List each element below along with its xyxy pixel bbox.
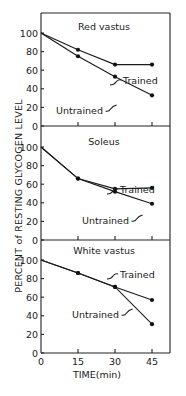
data-point xyxy=(76,177,80,181)
data-point xyxy=(113,75,117,79)
untrained-leader xyxy=(106,105,117,111)
data-point xyxy=(76,271,80,275)
untrained-label: Untrained xyxy=(82,215,129,226)
panel-white-vastus: 020406080100White vastusTrainedUntrained xyxy=(20,245,170,359)
untrained-label: Untrained xyxy=(72,309,119,320)
glycogen-depletion-figure: 020406080100Red vastusTrainedUntrained02… xyxy=(0,0,186,396)
panel-title: White vastus xyxy=(73,245,135,256)
untrained-leader xyxy=(132,215,143,221)
y-tick-label: 20 xyxy=(26,102,38,113)
x-tick-label: 30 xyxy=(109,356,121,367)
series-line-untrained xyxy=(41,147,152,204)
series-line-trained xyxy=(41,147,152,189)
y-tick-label: 100 xyxy=(20,28,38,39)
panel-soleus: 020406080100SoleusTrainedUntrained xyxy=(20,136,170,246)
y-tick-label: 60 xyxy=(26,65,38,76)
data-point xyxy=(113,63,117,67)
chart-panels: 020406080100Red vastusTrainedUntrained02… xyxy=(20,21,170,367)
chart-svg: 020406080100Red vastusTrainedUntrained02… xyxy=(0,0,186,396)
data-point xyxy=(150,93,154,97)
data-point xyxy=(150,63,154,67)
y-tick-label: 40 xyxy=(26,197,38,208)
y-tick-label: 40 xyxy=(26,83,38,94)
untrained-leader xyxy=(122,309,133,315)
y-tick-label: 80 xyxy=(26,46,38,57)
data-point xyxy=(150,322,154,326)
series-line-trained xyxy=(41,33,152,65)
y-tick-label: 80 xyxy=(26,160,38,171)
y-tick-label: 60 xyxy=(26,292,38,303)
x-tick-label: 0 xyxy=(38,356,44,367)
x-axis-label: TIME(min) xyxy=(72,369,121,380)
y-tick-label: 20 xyxy=(26,329,38,340)
trained-leader xyxy=(107,274,118,279)
data-point xyxy=(150,298,154,302)
data-point xyxy=(76,48,80,52)
panel-red-vastus: 020406080100Red vastusTrainedUntrained xyxy=(20,21,170,132)
y-axis-label: PERCENT of RESTING GLYCOGEN LEVEL xyxy=(13,99,24,293)
y-tick-label: 0 xyxy=(32,235,38,246)
trained-leader xyxy=(110,80,121,85)
data-point xyxy=(76,54,80,58)
panel-title: Red vastus xyxy=(78,21,130,32)
trained-label: Trained xyxy=(122,75,158,86)
untrained-label: Untrained xyxy=(56,105,103,116)
data-point xyxy=(150,202,154,206)
y-tick-label: 0 xyxy=(32,121,38,132)
x-tick-label: 15 xyxy=(72,356,84,367)
data-point xyxy=(113,285,117,289)
trained-label: Trained xyxy=(119,184,155,195)
trained-label: Trained xyxy=(119,269,155,280)
x-tick-label: 45 xyxy=(146,356,158,367)
y-tick-label: 80 xyxy=(26,273,38,284)
y-tick-label: 40 xyxy=(26,310,38,321)
y-tick-label: 20 xyxy=(26,216,38,227)
panel-title: Soleus xyxy=(88,136,119,147)
y-tick-label: 60 xyxy=(26,179,38,190)
